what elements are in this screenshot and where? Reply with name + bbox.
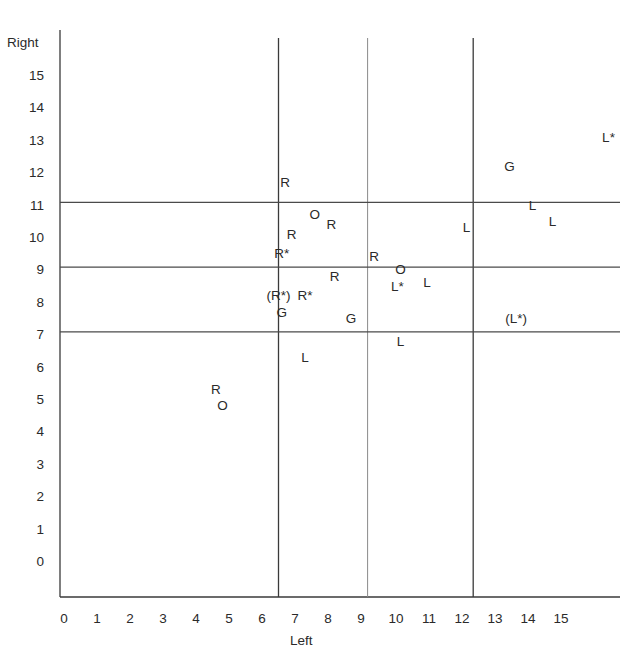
x-tick-label: 11	[422, 612, 436, 626]
data-point-label: L	[463, 222, 471, 236]
data-point-label: R	[280, 176, 290, 190]
x-tick-label: 13	[487, 612, 502, 626]
data-point-label: L	[549, 215, 557, 229]
data-point-label: L	[301, 351, 309, 365]
y-tick-label: 7	[36, 328, 44, 342]
scatter-chart: 1514131211109876543210012345678910111213…	[0, 0, 639, 668]
data-point-label: R	[211, 384, 221, 398]
y-tick-label: 9	[36, 264, 44, 278]
x-tick-label: 15	[553, 612, 568, 626]
data-point-label: L	[397, 335, 405, 349]
data-point-label: G	[504, 160, 515, 174]
data-point-label: R	[330, 270, 340, 284]
x-tick-label: 6	[258, 612, 266, 626]
x-tick-label: 14	[520, 612, 535, 626]
x-axis-title: Left	[290, 634, 313, 648]
x-tick-label: 1	[93, 612, 101, 626]
y-tick-label: 6	[36, 361, 44, 375]
y-tick-label: 13	[29, 134, 44, 148]
data-point-label: (L*)	[505, 312, 527, 326]
data-point-label: O	[395, 264, 406, 278]
data-point-label: O	[217, 400, 228, 414]
y-tick-label: 4	[36, 426, 44, 440]
y-tick-label: 15	[29, 69, 44, 83]
x-tick-label: 5	[225, 612, 233, 626]
y-tick-label: 10	[29, 231, 44, 245]
data-point-label: G	[277, 306, 288, 320]
data-point-label: R*	[274, 247, 289, 261]
data-point-label: L	[423, 277, 431, 291]
chart-plot-area	[0, 0, 639, 668]
x-tick-label: 10	[388, 612, 403, 626]
data-point-label: L*	[602, 131, 615, 145]
y-axis-title: Right	[7, 36, 39, 50]
data-point-label: R	[369, 251, 379, 265]
data-point-label: L	[529, 199, 537, 213]
data-point-label: R*	[297, 290, 312, 304]
y-tick-label: 3	[36, 458, 44, 472]
data-point-label: G	[346, 312, 357, 326]
x-tick-label: 4	[192, 612, 200, 626]
data-point-label: O	[310, 209, 321, 223]
data-point-label: (R*)	[267, 290, 291, 304]
data-point-label: L*	[391, 280, 404, 294]
x-tick-label: 7	[291, 612, 299, 626]
y-tick-label: 12	[29, 166, 44, 180]
y-tick-label: 8	[36, 296, 44, 310]
y-tick-label: 5	[36, 393, 44, 407]
x-tick-label: 3	[159, 612, 167, 626]
y-tick-label: 0	[36, 555, 44, 569]
y-tick-label: 2	[36, 490, 44, 504]
x-tick-label: 2	[126, 612, 134, 626]
x-tick-label: 9	[357, 612, 365, 626]
x-tick-label: 8	[324, 612, 332, 626]
y-tick-label: 14	[29, 102, 44, 116]
data-point-label: R	[287, 228, 297, 242]
x-tick-label: 0	[60, 612, 68, 626]
x-tick-label: 12	[454, 612, 469, 626]
y-tick-label: 1	[36, 523, 44, 537]
y-tick-label: 11	[30, 199, 44, 213]
data-point-label: R	[326, 218, 336, 232]
